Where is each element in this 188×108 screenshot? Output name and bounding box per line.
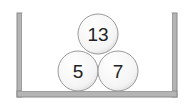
ball-label: 13 [87,24,108,45]
ball-bottom-left: 5 [58,51,98,91]
ball-label: 7 [113,61,124,82]
ball-top: 13 [78,14,118,54]
balls-in-container-diagram: 5 7 13 [0,0,188,108]
ball-label: 5 [73,61,84,82]
ball-bottom-right: 7 [98,51,138,91]
